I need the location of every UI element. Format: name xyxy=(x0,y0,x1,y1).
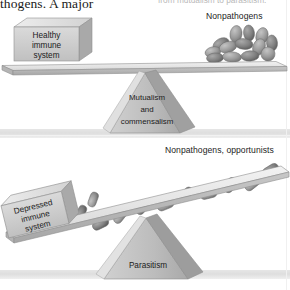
fulcrum-label-line1: Parasitism xyxy=(129,261,167,270)
panel-top-scene: Healthy immune system Mutualism and comm… xyxy=(2,18,287,133)
fulcrum-label-line3: commensalism xyxy=(121,117,174,126)
block-label-line1: Healthy xyxy=(33,31,62,40)
panel-bottom-scene: Depressed immune system Parasitism xyxy=(0,162,289,279)
block-label-line3: system xyxy=(34,51,60,60)
block-healthy-immune-system: Healthy immune system xyxy=(14,18,92,61)
fulcrum-label-line1: Mutualism xyxy=(129,93,165,102)
fulcrum-mutualism-commensalism: Mutualism and commensalism xyxy=(103,70,195,133)
seesaw-illustration: Healthy immune system Mutualism and comm… xyxy=(0,0,290,290)
fulcrum-parasitism: Parasitism xyxy=(96,214,203,279)
figure-canvas: thogens. A major from mutualism to paras… xyxy=(0,0,290,290)
microbe-pile-nonpathogens xyxy=(204,24,278,63)
fulcrum-label-line2: and xyxy=(140,105,153,114)
block-label-line2: immune xyxy=(32,41,62,50)
